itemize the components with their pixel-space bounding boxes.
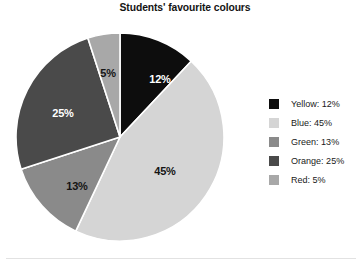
legend-item-label: Yellow: 12% <box>291 98 340 109</box>
chart-title: Students' favourite colours <box>68 1 303 13</box>
pie-chart: 12%45%13%25%5% <box>15 32 225 242</box>
legend-swatch-icon <box>269 137 279 147</box>
legend-item[interactable]: Yellow: 12% <box>269 94 361 113</box>
legend-item-label: Blue: 45% <box>291 117 332 128</box>
pie-slice-group <box>16 33 224 241</box>
pie-slice-label-blue: 45% <box>154 165 176 177</box>
legend-swatch-icon <box>269 175 279 185</box>
legend-swatch-icon <box>269 156 279 166</box>
legend-item[interactable]: Orange: 25% <box>269 151 361 170</box>
legend-item-label: Green: 13% <box>291 136 339 147</box>
legend-swatch-icon <box>269 99 279 109</box>
legend-item[interactable]: Green: 13% <box>269 132 361 151</box>
chart-canvas: Students' favourite colours 12%45%13%25%… <box>0 0 363 268</box>
legend-item[interactable]: Blue: 45% <box>269 113 361 132</box>
legend-item-label: Orange: 25% <box>291 155 344 166</box>
pie-slice-label-green: 13% <box>66 180 88 192</box>
legend: Yellow: 12%Blue: 45%Green: 13%Orange: 25… <box>269 94 361 189</box>
pie-slice-label-red: 5% <box>100 67 116 79</box>
pie-slice-label-yellow: 12% <box>149 73 171 85</box>
legend-item[interactable]: Red: 5% <box>269 170 361 189</box>
pie-chart-svg: 12%45%13%25%5% <box>15 32 225 242</box>
bottom-divider <box>6 258 356 259</box>
legend-item-label: Red: 5% <box>291 174 326 185</box>
pie-slice-label-orange: 25% <box>52 107 74 119</box>
legend-swatch-icon <box>269 118 279 128</box>
